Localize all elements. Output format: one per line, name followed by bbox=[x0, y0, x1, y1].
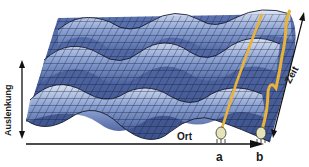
marker-label-b: b bbox=[256, 151, 263, 163]
axis-auslenkung-arrow bbox=[19, 60, 25, 139]
axis-ort-arrow bbox=[26, 140, 264, 148]
observer-a-figure bbox=[216, 127, 226, 143]
axis-label-ort: Ort bbox=[177, 132, 192, 142]
marker-label-a: a bbox=[216, 151, 223, 163]
observer-b-figure bbox=[256, 127, 266, 143]
axis-label-auslenkung: Auslenkung bbox=[4, 84, 13, 136]
wave-surface-diagram bbox=[0, 0, 309, 167]
